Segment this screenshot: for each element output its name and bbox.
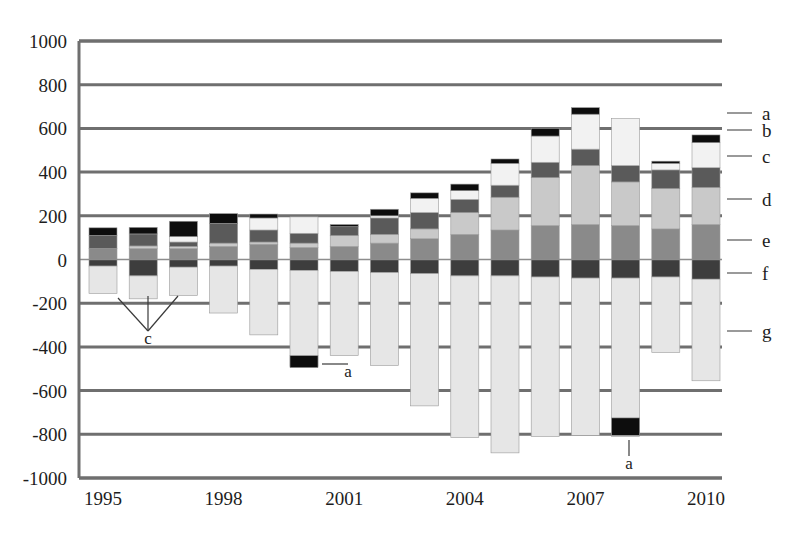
bar-segment [330, 260, 358, 272]
bar-segment [451, 184, 479, 191]
bar-segment [451, 260, 479, 276]
legend-label-b: b [762, 120, 772, 141]
bar-segment [210, 243, 238, 246]
bar-segment [290, 260, 318, 271]
bar-segment [89, 266, 117, 293]
bar-segment [451, 199, 479, 212]
x-axis-tick-labels: 199519982001200420072010 [84, 488, 725, 509]
bar-segment [491, 185, 519, 197]
bar-segment [290, 217, 318, 233]
bar-segment [370, 209, 398, 216]
bar-segment [169, 260, 197, 268]
callout-label-a: a [344, 362, 352, 381]
y-tick-label: 1000 [29, 31, 67, 52]
chart-container: 10008006004002000-200-400-600-800-1000 1… [0, 0, 798, 544]
bars [89, 108, 720, 453]
bar-segment [89, 260, 117, 267]
bar-segment [169, 246, 197, 248]
bar-segment [210, 266, 238, 313]
y-axis-tick-labels: 10008006004002000-200-400-600-800-1000 [23, 31, 67, 489]
callout-leader-line [148, 296, 178, 331]
bar-segment [491, 260, 519, 276]
bar-segment [210, 246, 238, 259]
bar-segment [531, 277, 559, 437]
bar-segment [210, 260, 238, 267]
bar-segment [411, 198, 439, 212]
bar-segment [129, 276, 157, 299]
bar-segment [612, 260, 640, 279]
bar-segment [250, 244, 278, 259]
bar-segment [692, 168, 720, 188]
callout-label-c: c [144, 329, 152, 348]
bar-segment [210, 214, 238, 224]
x-tick-label: 2001 [325, 488, 363, 509]
bar-segment [411, 213, 439, 229]
bar-segment [370, 216, 398, 218]
bar-segment [411, 193, 439, 198]
bar-segment [330, 225, 358, 227]
y-tick-label: 400 [39, 162, 68, 183]
bar-segment [491, 197, 519, 230]
bar-segment [411, 274, 439, 406]
bar-segment [250, 230, 278, 242]
bar-segment [571, 278, 599, 435]
bar-segment [451, 276, 479, 438]
callout-label-a: a [625, 454, 633, 473]
y-tick-label: 0 [58, 250, 68, 271]
bar-segment [491, 230, 519, 259]
x-tick-label: 1998 [205, 488, 243, 509]
bar-segment [89, 235, 117, 248]
bar-segment [612, 278, 640, 436]
bar-segment [290, 233, 318, 243]
x-tick-label: 1995 [84, 488, 122, 509]
bar-segment [531, 128, 559, 136]
bar-segment [169, 237, 197, 242]
y-tick-label: -400 [32, 337, 67, 358]
bar-segment [692, 260, 720, 280]
bar-segment [531, 162, 559, 177]
bar-segment [491, 163, 519, 185]
bar-segment [330, 272, 358, 356]
stacked-bar-chart: 10008006004002000-200-400-600-800-1000 1… [0, 0, 798, 544]
bar-segment [169, 249, 197, 260]
bar-segment [571, 114, 599, 149]
bar-segment [571, 260, 599, 279]
y-tick-label: -600 [32, 381, 67, 402]
bar-segment [290, 356, 318, 368]
bar-segment [612, 226, 640, 260]
bar-segment [370, 234, 398, 243]
bar-segment [290, 247, 318, 259]
bar-segment [652, 188, 680, 228]
bar-segment [129, 227, 157, 234]
bar-segment [652, 170, 680, 189]
bar-segment [411, 229, 439, 239]
bar-segment [692, 187, 720, 224]
bar-segment [370, 260, 398, 273]
bar-segment [290, 270, 318, 366]
bar-segment [491, 159, 519, 163]
bar-segment [692, 135, 720, 143]
bar-segment [612, 166, 640, 182]
y-tick-label: 600 [39, 118, 68, 139]
bar-segment [612, 418, 640, 435]
bar-segment [652, 161, 680, 163]
bar-segment [491, 276, 519, 453]
bar-segment [652, 260, 680, 277]
bar-segment [652, 229, 680, 260]
bar-segment [571, 149, 599, 165]
bar-segment [692, 279, 720, 381]
bar-segment [370, 243, 398, 259]
legend-label-d: d [762, 189, 772, 210]
bar-segment [250, 260, 278, 270]
bar-segment [250, 269, 278, 335]
bar-segment [330, 227, 358, 236]
bar-segment [411, 239, 439, 260]
bar-segment [89, 228, 117, 236]
y-tick-label: 800 [39, 75, 68, 96]
bar-segment [330, 246, 358, 259]
x-tick-label: 2007 [566, 488, 604, 509]
legend-label-f: f [762, 263, 769, 284]
bar-segment [652, 163, 680, 170]
bar-segment [250, 242, 278, 244]
bar-segment [210, 223, 238, 243]
